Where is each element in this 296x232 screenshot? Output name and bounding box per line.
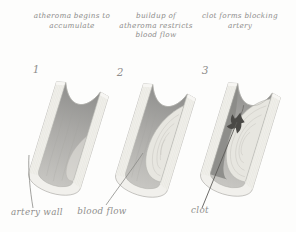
artery-stage-3-illustration: [197, 80, 281, 202]
artery-stage-1-illustration: [25, 79, 109, 201]
stage-2-number: 2: [114, 66, 126, 78]
caption-line: buildup of: [112, 11, 200, 21]
clot-label: clot: [186, 205, 214, 215]
stage-3-caption: clot forms blocking artery: [194, 11, 286, 30]
artery-stage-2-illustration: [112, 81, 196, 203]
artery-wall-label: artery wall: [10, 207, 64, 217]
caption-line: clot forms blocking: [194, 11, 286, 21]
caption-line: blood flow: [112, 30, 200, 40]
blood-flow-label: blood flow: [77, 206, 127, 216]
caption-line: artery: [194, 21, 286, 31]
caption-line: atheroma begins to: [22, 11, 122, 21]
stage-2-caption: buildup of atheroma restricts blood flow: [112, 11, 200, 40]
caption-line: accumulate: [22, 21, 122, 31]
stage-1-caption: atheroma begins to accumulate: [22, 11, 122, 30]
stage-3-number: 3: [199, 64, 211, 76]
caption-line: atheroma restricts: [112, 21, 200, 31]
atherosclerosis-stages-diagram: atheroma begins to accumulate buildup of…: [0, 0, 296, 232]
stage-1-number: 1: [30, 63, 42, 75]
